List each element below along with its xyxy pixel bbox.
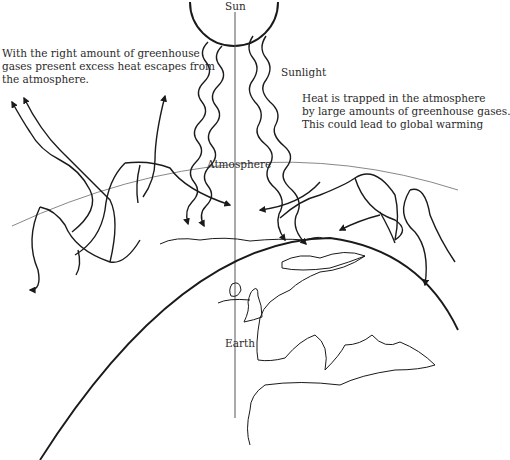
heat-path <box>340 215 380 230</box>
coastline-scandinavia <box>282 252 365 270</box>
caption-left-line-3: the atmosphere. <box>2 73 215 86</box>
heat-path <box>137 165 140 203</box>
heat-path <box>30 207 40 290</box>
caption-right-line-1: Heat is trapped in the atmosphere <box>302 92 510 105</box>
escaping-heat-arrow <box>24 98 115 262</box>
heat-path <box>40 207 140 262</box>
caption-right: Heat is trapped in the atmosphere by lar… <box>302 92 510 131</box>
heat-path <box>410 189 455 262</box>
heat-path <box>75 163 125 255</box>
earth-label: Earth <box>225 337 255 350</box>
caption-left-line-2: gases present excess heat escapes from <box>2 60 215 73</box>
sun-label: Sun <box>225 0 246 13</box>
caption-left-line-1: With the right amount of greenhouse <box>2 47 215 60</box>
heat-path <box>404 190 427 285</box>
caption-right-line-3: This could lead to global warming <box>302 118 510 131</box>
sunlight-label: Sunlight <box>281 66 326 79</box>
coastline-britain <box>244 288 262 322</box>
coastline-europe <box>248 256 436 445</box>
heat-path <box>260 182 320 210</box>
heat-path <box>280 174 398 240</box>
caption-right-line-2: by large amounts of greenhouse gases. <box>302 105 510 118</box>
atmosphere-label: Atmosphere <box>207 158 271 171</box>
escaping-heat-arrow <box>143 96 165 197</box>
coastline-iberia <box>218 299 250 303</box>
caption-left: With the right amount of greenhouse gase… <box>2 47 215 86</box>
heat-path <box>355 178 403 240</box>
